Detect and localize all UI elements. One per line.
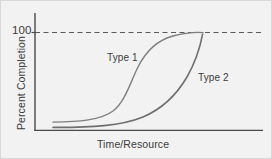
chart-plot-area xyxy=(1,1,272,159)
y-axis-title: Percent Completion xyxy=(15,31,27,135)
chart-figure: 100 Percent Completion Time/Resource Typ… xyxy=(0,0,272,159)
series-annotation-type-1: Type 1 xyxy=(107,52,138,63)
series-line-type-1 xyxy=(53,32,203,122)
x-axis-title: Time/Resource xyxy=(97,138,169,150)
series-line-type-2 xyxy=(53,34,203,127)
series-annotation-type-2: Type 2 xyxy=(198,72,229,83)
